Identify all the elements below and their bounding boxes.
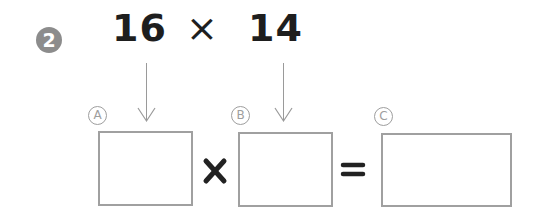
label-b-circle: B (231, 106, 250, 125)
times-sign-icon (202, 157, 228, 185)
answer-box-c[interactable] (381, 133, 512, 207)
equals-sign-icon (340, 161, 366, 179)
answer-box-a[interactable] (98, 131, 193, 206)
arrow-down-icon (273, 106, 294, 123)
label-c-circle: C (374, 107, 393, 126)
right-operand: 14 (248, 6, 303, 50)
answer-box-b[interactable] (238, 132, 333, 207)
multiply-operator: × (186, 6, 219, 50)
problem-number-badge: 2 (36, 27, 62, 53)
label-a-circle: A (88, 106, 107, 125)
arrow-down-icon (136, 106, 157, 123)
left-operand: 16 (112, 6, 167, 50)
